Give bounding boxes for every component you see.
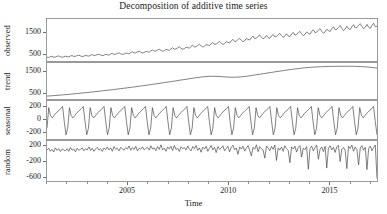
x-minor-tick [66, 182, 67, 184]
panel-trend [46, 62, 378, 100]
x-minor-tick [208, 182, 209, 184]
x-minor-tick [147, 182, 148, 184]
x-tick-mark [228, 182, 229, 185]
y-tick-mark [43, 71, 46, 72]
y-tick-label: 500 [12, 49, 41, 58]
x-minor-tick [350, 182, 351, 184]
chart-title: Decomposition of additive time series [0, 1, 387, 11]
y-tick-label: 200 [12, 101, 41, 110]
x-minor-tick [309, 182, 310, 184]
panel-random [46, 140, 378, 182]
x-tick-label: 2005 [107, 186, 147, 195]
y-tick-label: 200 [12, 140, 41, 149]
y-tick-label: -200 [12, 156, 41, 165]
panel-seasonal [46, 100, 378, 140]
x-axis-label: Time [0, 198, 387, 208]
y-tick-mark [43, 145, 46, 146]
x-minor-tick [107, 182, 108, 184]
y-tick-label: 500 [12, 88, 41, 97]
x-tick-label: 2015 [309, 186, 349, 195]
y-tick-mark [43, 54, 46, 55]
trend-series-line [47, 63, 377, 99]
x-minor-tick [87, 182, 88, 184]
y-tick-mark [43, 132, 46, 133]
y-tick-mark [43, 161, 46, 162]
y-tick-mark [43, 119, 46, 120]
observed-series-line [47, 19, 377, 61]
x-minor-tick [370, 182, 371, 184]
random-series-line [47, 141, 377, 181]
x-tick-label: 2010 [208, 186, 248, 195]
y-tick-label: -200 [12, 127, 41, 136]
x-minor-tick [188, 182, 189, 184]
x-tick-mark [127, 182, 128, 185]
y-tick-label: 1500 [12, 66, 41, 75]
x-minor-tick [289, 182, 290, 184]
x-minor-tick [248, 182, 249, 184]
panel-observed [46, 18, 378, 62]
y-tick-label: 1500 [12, 27, 41, 36]
x-minor-tick [269, 182, 270, 184]
y-tick-mark [43, 177, 46, 178]
decomposition-plot: Decomposition of additive time series ob… [0, 0, 387, 214]
y-tick-mark [43, 93, 46, 94]
seasonal-series-line [47, 101, 377, 139]
y-tick-label: -600 [12, 172, 41, 181]
x-tick-mark [329, 182, 330, 185]
y-tick-mark [43, 32, 46, 33]
x-minor-tick [168, 182, 169, 184]
y-tick-mark [43, 106, 46, 107]
x-minor-tick [46, 182, 47, 184]
y-tick-label: 0 [12, 114, 41, 123]
